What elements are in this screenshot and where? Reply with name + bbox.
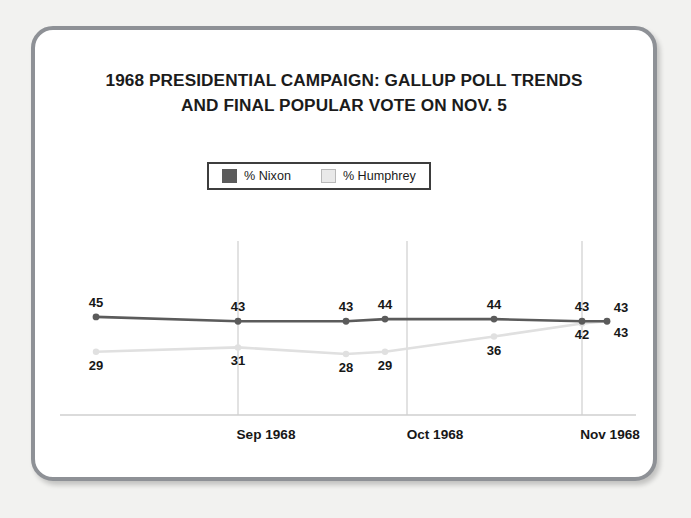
data-point[interactable] — [604, 318, 611, 325]
data-point[interactable] — [93, 314, 100, 321]
value-label: 28 — [339, 360, 353, 375]
chart-legend: % Nixon % Humphrey — [207, 162, 431, 190]
value-label: 31 — [231, 353, 245, 368]
legend-swatch-icon-nixon — [222, 169, 237, 183]
data-point[interactable] — [382, 316, 389, 323]
series-line-nixon — [93, 314, 611, 325]
value-label: 36 — [487, 343, 501, 358]
data-point[interactable] — [235, 318, 242, 325]
value-labels-nixon: 45434344444343 — [89, 295, 628, 315]
data-point[interactable] — [343, 318, 350, 325]
x-tick-label-2: Nov 1968 — [580, 427, 640, 442]
value-label: 43 — [231, 299, 245, 314]
value-label: 44 — [487, 297, 502, 312]
value-label: 43 — [614, 325, 628, 340]
value-label: 43 — [339, 299, 353, 314]
data-point[interactable] — [382, 349, 388, 355]
data-point[interactable] — [579, 318, 586, 325]
data-point[interactable] — [604, 318, 610, 324]
legend-item-nixon[interactable]: % Nixon — [222, 169, 291, 183]
data-point[interactable] — [579, 320, 585, 326]
data-point[interactable] — [93, 349, 99, 355]
chart-title: 1968 PRESIDENTIAL CAMPAIGN: GALLUP POLL … — [63, 68, 625, 118]
legend-label-humphrey: % Humphrey — [343, 169, 416, 183]
chart-title-line-2: AND FINAL POPULAR VOTE ON NOV. 5 — [63, 93, 625, 118]
legend-item-humphrey[interactable]: % Humphrey — [321, 169, 416, 183]
chart-title-line-1: 1968 PRESIDENTIAL CAMPAIGN: GALLUP POLL … — [63, 68, 625, 93]
legend-swatch-icon-humphrey — [321, 169, 336, 183]
value-label: 29 — [378, 358, 392, 373]
value-label: 29 — [89, 358, 103, 373]
x-tick-label-0: Sep 1968 — [237, 427, 296, 442]
x-tick-label-1: Oct 1968 — [407, 427, 464, 442]
gridlines — [238, 241, 582, 415]
polyline — [96, 321, 607, 354]
value-label: 45 — [89, 295, 103, 310]
data-point[interactable] — [343, 351, 349, 357]
data-point[interactable] — [235, 344, 241, 350]
value-label: 44 — [378, 297, 393, 312]
value-label: 42 — [575, 327, 589, 342]
data-point[interactable] — [491, 316, 498, 323]
legend-label-nixon: % Nixon — [244, 169, 291, 183]
chart-card: 1968 PRESIDENTIAL CAMPAIGN: GALLUP POLL … — [31, 26, 657, 481]
value-label: 43 — [614, 300, 628, 315]
series-line-humphrey — [93, 318, 610, 357]
value-label: 43 — [575, 299, 589, 314]
data-point[interactable] — [491, 333, 497, 339]
x-axis-tick-labels: Sep 1968Oct 1968Nov 1968 — [237, 427, 641, 442]
polyline — [96, 317, 607, 321]
value-labels-humphrey: 29312829364243 — [89, 325, 628, 375]
